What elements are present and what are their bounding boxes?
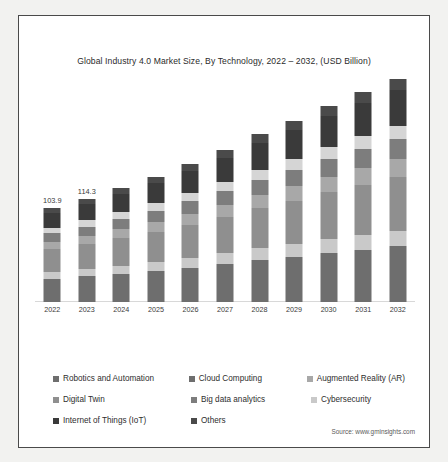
bar-segment[interactable] bbox=[44, 279, 61, 303]
bar-segment[interactable] bbox=[389, 90, 406, 126]
bar-segment[interactable] bbox=[251, 195, 268, 208]
legend-item[interactable]: Others bbox=[191, 416, 311, 425]
bar-segment[interactable] bbox=[147, 222, 164, 232]
bar-segment[interactable] bbox=[389, 246, 406, 302]
bar-segment[interactable] bbox=[286, 257, 303, 302]
bar-segment[interactable] bbox=[44, 233, 61, 241]
bar-segment[interactable] bbox=[355, 168, 372, 185]
bar-segment[interactable] bbox=[147, 203, 164, 211]
bar-segment[interactable] bbox=[44, 249, 61, 272]
bar-segment[interactable] bbox=[355, 136, 372, 149]
legend-item[interactable]: Cloud Computing bbox=[189, 374, 307, 383]
bar-segment[interactable] bbox=[44, 213, 61, 228]
bar-segment[interactable] bbox=[355, 103, 372, 137]
bar-column[interactable] bbox=[242, 76, 277, 302]
bar-segment[interactable] bbox=[216, 253, 233, 264]
stacked-bar[interactable] bbox=[389, 79, 406, 302]
bar-column[interactable] bbox=[173, 76, 208, 302]
bar-segment[interactable] bbox=[389, 177, 406, 231]
stacked-bar[interactable] bbox=[216, 150, 233, 302]
bar-segment[interactable] bbox=[113, 266, 130, 274]
stacked-bar[interactable] bbox=[78, 199, 95, 302]
bar-segment[interactable] bbox=[113, 238, 130, 265]
bar-segment[interactable] bbox=[389, 139, 406, 159]
bar-segment[interactable] bbox=[251, 260, 268, 302]
bar-segment[interactable] bbox=[78, 276, 95, 302]
bar-segment[interactable] bbox=[355, 250, 372, 302]
bar-segment[interactable] bbox=[389, 126, 406, 139]
bar-segment[interactable] bbox=[286, 121, 303, 130]
bar-segment[interactable] bbox=[251, 170, 268, 180]
bar-segment[interactable] bbox=[113, 219, 130, 229]
bar-segment[interactable] bbox=[355, 235, 372, 250]
bar-segment[interactable] bbox=[286, 170, 303, 186]
bar-column[interactable] bbox=[139, 76, 174, 302]
bar-column[interactable] bbox=[380, 76, 415, 302]
bar-segment[interactable] bbox=[286, 130, 303, 159]
bar-segment[interactable] bbox=[286, 244, 303, 257]
bar-segment[interactable] bbox=[216, 264, 233, 302]
bar-segment[interactable] bbox=[355, 149, 372, 168]
bar-segment[interactable] bbox=[44, 242, 61, 250]
bar-segment[interactable] bbox=[182, 201, 199, 213]
legend-item[interactable]: Cybersecurity bbox=[311, 395, 371, 404]
bar-segment[interactable] bbox=[147, 271, 164, 302]
stacked-bar[interactable] bbox=[320, 106, 337, 302]
bar-segment[interactable] bbox=[251, 143, 268, 170]
bar-segment[interactable] bbox=[389, 159, 406, 177]
bar-segment[interactable] bbox=[389, 231, 406, 247]
stacked-bar[interactable] bbox=[147, 177, 164, 302]
bar-segment[interactable] bbox=[320, 253, 337, 302]
bar-segment[interactable] bbox=[286, 159, 303, 170]
bar-segment[interactable] bbox=[216, 158, 233, 182]
stacked-bar[interactable] bbox=[182, 164, 199, 302]
bar-column[interactable] bbox=[311, 76, 346, 302]
bar-segment[interactable] bbox=[251, 208, 268, 248]
stacked-bar[interactable] bbox=[355, 92, 372, 302]
bar-segment[interactable] bbox=[182, 258, 199, 268]
bar-column[interactable] bbox=[104, 76, 139, 302]
bar-column[interactable]: 103.9 bbox=[35, 76, 70, 302]
bar-segment[interactable] bbox=[182, 214, 199, 225]
bar-column[interactable]: 114.3 bbox=[70, 76, 105, 302]
bar-segment[interactable] bbox=[216, 182, 233, 191]
bar-segment[interactable] bbox=[78, 236, 95, 244]
bar-column[interactable] bbox=[208, 76, 243, 302]
bar-segment[interactable] bbox=[320, 239, 337, 253]
stacked-bar[interactable] bbox=[251, 134, 268, 302]
legend-item[interactable]: Internet of Things (IoT) bbox=[53, 416, 191, 425]
bar-segment[interactable] bbox=[320, 159, 337, 177]
bar-segment[interactable] bbox=[251, 134, 268, 142]
bar-segment[interactable] bbox=[182, 164, 199, 171]
bar-segment[interactable] bbox=[113, 229, 130, 238]
bar-segment[interactable] bbox=[78, 244, 95, 269]
bar-segment[interactable] bbox=[147, 262, 164, 271]
bar-segment[interactable] bbox=[44, 272, 61, 279]
bar-segment[interactable] bbox=[286, 201, 303, 244]
bar-segment[interactable] bbox=[182, 171, 199, 193]
bar-segment[interactable] bbox=[182, 225, 199, 258]
bar-segment[interactable] bbox=[147, 232, 164, 262]
stacked-bar[interactable] bbox=[286, 121, 303, 302]
bar-segment[interactable] bbox=[320, 106, 337, 116]
bar-segment[interactable] bbox=[320, 192, 337, 239]
bar-segment[interactable] bbox=[216, 150, 233, 158]
legend-item[interactable]: Big data analytics bbox=[191, 395, 311, 404]
bar-column[interactable] bbox=[346, 76, 381, 302]
bar-segment[interactable] bbox=[147, 211, 164, 222]
bar-segment[interactable] bbox=[182, 268, 199, 302]
legend-item[interactable]: Digital Twin bbox=[53, 395, 191, 404]
bar-segment[interactable] bbox=[251, 248, 268, 260]
bar-segment[interactable] bbox=[320, 147, 337, 159]
bar-segment[interactable] bbox=[355, 92, 372, 102]
bar-segment[interactable] bbox=[389, 79, 406, 90]
bar-segment[interactable] bbox=[216, 217, 233, 253]
legend-item[interactable]: Robotics and Automation bbox=[53, 374, 189, 383]
bar-segment[interactable] bbox=[320, 177, 337, 193]
bar-segment[interactable] bbox=[216, 205, 233, 217]
bar-segment[interactable] bbox=[216, 191, 233, 205]
bar-segment[interactable] bbox=[320, 116, 337, 147]
bar-segment[interactable] bbox=[182, 193, 199, 201]
bar-segment[interactable] bbox=[113, 274, 130, 302]
bar-segment[interactable] bbox=[113, 212, 130, 219]
